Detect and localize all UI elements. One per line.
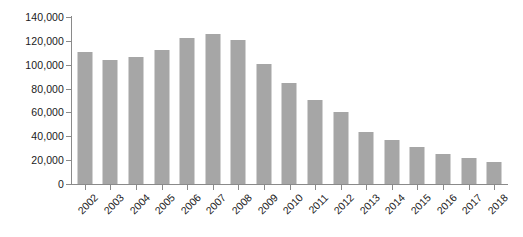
bar <box>282 83 297 184</box>
x-axis-tick-label: 2004 <box>127 192 151 216</box>
bar <box>256 64 271 184</box>
x-axis-tick <box>110 185 111 190</box>
x-axis-tick <box>392 185 393 190</box>
bar-slot <box>200 17 226 184</box>
x-axis-tick <box>469 185 470 190</box>
x-axis-tick-label: 2014 <box>383 192 407 216</box>
bar <box>103 60 118 184</box>
bar-slot <box>72 17 98 184</box>
x-axis-tick-label: 2016 <box>434 192 458 216</box>
bar <box>461 158 476 184</box>
x-axis-tick-label: 2017 <box>460 192 484 216</box>
bar-slot <box>174 17 200 184</box>
x-axis-tick-label: 2005 <box>153 192 177 216</box>
x-axis-tick-label: 2003 <box>102 192 126 216</box>
x-axis-tick-label: 2012 <box>332 192 356 216</box>
bar-slot <box>149 17 175 184</box>
x-axis-tick <box>162 185 163 190</box>
bar <box>308 100 323 184</box>
bar <box>410 147 425 184</box>
x-axis-tick <box>187 185 188 190</box>
bar <box>333 112 348 184</box>
x-axis-tick <box>136 185 137 190</box>
bar <box>436 154 451 184</box>
x-axis-tick <box>494 185 495 190</box>
x-axis-tick <box>366 185 367 190</box>
bar <box>231 40 246 184</box>
y-axis-tick <box>66 184 72 185</box>
bar-slot <box>328 17 354 184</box>
x-axis-tick <box>341 185 342 190</box>
x-axis-tick-label: 2007 <box>204 192 228 216</box>
x-axis-tick <box>213 185 214 190</box>
x-axis-tick <box>85 185 86 190</box>
bar-series <box>72 17 507 184</box>
y-axis-tick-label: 80,000 <box>0 83 64 94</box>
x-axis-tick <box>315 185 316 190</box>
y-axis-tick-label: 20,000 <box>0 155 64 166</box>
x-axis-tick-label: 2009 <box>255 192 279 216</box>
x-axis-tick-label: 2002 <box>76 192 100 216</box>
bar <box>180 38 195 184</box>
x-axis-tick <box>238 185 239 190</box>
bar-slot <box>302 17 328 184</box>
bar <box>154 50 169 184</box>
y-axis-tick-label: 60,000 <box>0 107 64 118</box>
x-axis-tick-label: 2006 <box>179 192 203 216</box>
bar-slot <box>481 17 507 184</box>
bar-slot <box>456 17 482 184</box>
y-axis-tick-label: 120,000 <box>0 36 64 47</box>
x-axis-tick <box>443 185 444 190</box>
bar-slot <box>353 17 379 184</box>
y-axis-tick-label: 140,000 <box>0 12 64 23</box>
bar <box>77 52 92 184</box>
x-axis-tick <box>417 185 418 190</box>
y-axis-tick-label: 0 <box>0 179 64 190</box>
bar-slot <box>430 17 456 184</box>
bar <box>384 140 399 184</box>
y-axis-tick-label: 100,000 <box>0 59 64 70</box>
bar-slot <box>251 17 277 184</box>
x-axis-tick-label: 2018 <box>486 192 510 216</box>
x-axis-tick-label: 2008 <box>230 192 254 216</box>
bar-chart: 020,00040,00060,00080,000100,000120,0001… <box>0 0 523 237</box>
bar-slot <box>405 17 431 184</box>
x-axis-tick-label: 2011 <box>307 192 330 215</box>
bar <box>359 132 374 184</box>
x-axis-tick-label: 2013 <box>358 192 382 216</box>
x-axis-tick-label: 2015 <box>409 192 433 216</box>
bar-slot <box>226 17 252 184</box>
bar-slot <box>98 17 124 184</box>
x-axis-tick <box>290 185 291 190</box>
x-axis-tick-label: 2010 <box>281 192 305 216</box>
x-axis-tick <box>264 185 265 190</box>
bar <box>487 162 502 184</box>
bar-slot <box>123 17 149 184</box>
bar <box>205 34 220 184</box>
bar-slot <box>379 17 405 184</box>
bar <box>128 57 143 184</box>
y-axis-tick-label: 40,000 <box>0 131 64 142</box>
bar-slot <box>277 17 303 184</box>
